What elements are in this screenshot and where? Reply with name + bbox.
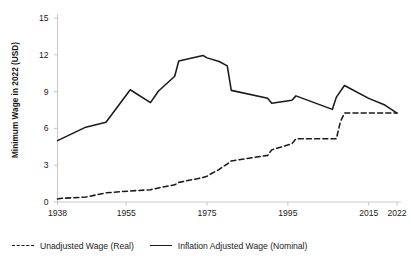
legend-label: Unadjusted Wage (Real) xyxy=(40,241,134,251)
chart-legend: Unadjusted Wage (Real)Inflation Adjusted… xyxy=(0,238,405,254)
solid-line-icon xyxy=(150,241,172,251)
series-line-0 xyxy=(58,113,398,199)
legend-label: Inflation Adjusted Wage (Nominal) xyxy=(178,241,308,251)
series-lines xyxy=(58,55,398,199)
legend-item[interactable]: Inflation Adjusted Wage (Nominal) xyxy=(150,241,308,251)
series-line-1 xyxy=(58,55,398,140)
tick-marks xyxy=(54,18,397,206)
legend-item[interactable]: Unadjusted Wage (Real) xyxy=(12,241,134,251)
axis-lines xyxy=(58,14,402,202)
dashed-line-icon xyxy=(12,241,34,251)
